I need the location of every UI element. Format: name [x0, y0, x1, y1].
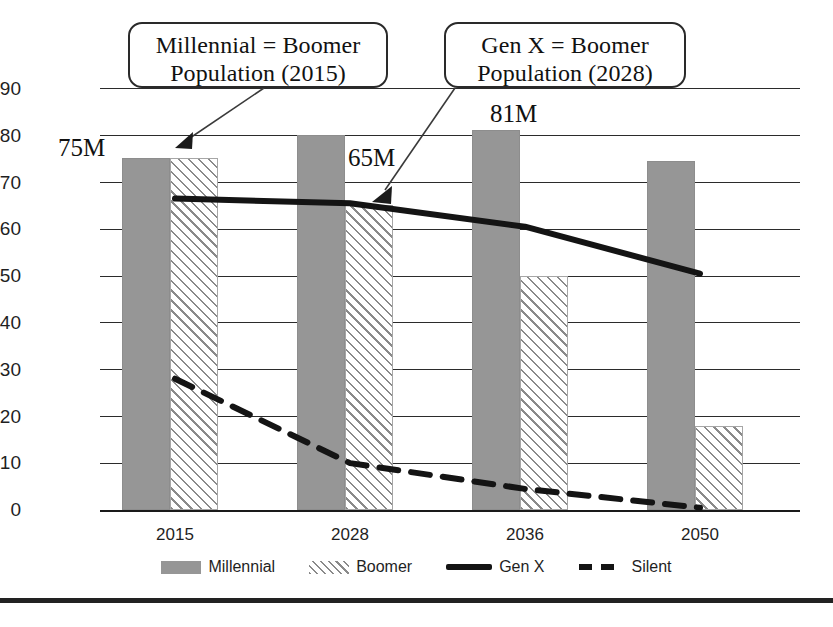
ytick-label-50: 50	[0, 266, 21, 285]
ytick-label-0: 0	[0, 500, 21, 519]
value-label-65m: 65M	[348, 145, 395, 170]
callout-millennial-boomer: Millennial = Boomer Population (2015)	[128, 22, 388, 88]
ytick-label-80: 80	[0, 126, 21, 145]
legend-item-genx: Gen X	[446, 558, 544, 576]
legend-label-silent: Silent	[632, 558, 672, 576]
bar-millennial-2050	[647, 161, 695, 510]
bar-boomer-2028	[345, 205, 393, 510]
bar-millennial-2036	[472, 130, 520, 510]
legend-label-boomer: Boomer	[356, 558, 412, 576]
value-label-75m: 75M	[58, 135, 105, 160]
bar-boomer-2036	[520, 276, 568, 510]
boomer-swatch-icon	[309, 561, 349, 574]
ytick-label-90: 90	[0, 79, 21, 98]
ytick-label-30: 30	[0, 360, 21, 379]
bar-boomer-2050	[695, 426, 743, 510]
silent-line-swatch-icon	[579, 564, 625, 570]
legend-label-genx: Gen X	[499, 558, 544, 576]
legend-item-millennial: Millennial	[161, 558, 275, 576]
bottom-divider	[0, 598, 833, 603]
chart-legend: Millennial Boomer Gen X Silent	[0, 558, 833, 576]
legend-item-boomer: Boomer	[309, 558, 412, 576]
ytick-label-20: 20	[0, 407, 21, 426]
legend-item-silent: Silent	[579, 558, 672, 576]
bar-millennial-2028	[297, 135, 345, 510]
ytick-label-70: 70	[0, 173, 21, 192]
plot-area	[100, 88, 800, 510]
callout-genx-line2: Population (2028)	[446, 59, 684, 87]
bar-millennial-2015	[122, 158, 170, 510]
callout-genx-line1: Gen X = Boomer	[446, 31, 684, 59]
callout-genx-boomer: Gen X = Boomer Population (2028)	[444, 22, 686, 88]
callout-millennial-line1: Millennial = Boomer	[130, 31, 386, 59]
legend-label-millennial: Millennial	[208, 558, 275, 576]
genx-line-swatch-icon	[446, 564, 492, 570]
x-axis-line	[100, 510, 800, 512]
ytick-label-40: 40	[0, 313, 21, 332]
xtick-label-2036: 2036	[465, 525, 585, 545]
xtick-label-2015: 2015	[115, 525, 235, 545]
value-label-81m: 81M	[490, 101, 537, 126]
callout-millennial-line2: Population (2015)	[130, 59, 386, 87]
generation-population-chart: 90 80 70 60 50 40 30 20 10 0 2015 2028 2…	[0, 0, 833, 627]
xtick-label-2028: 2028	[290, 525, 410, 545]
bar-boomer-2015	[170, 158, 218, 510]
ytick-label-10: 10	[0, 453, 21, 472]
ytick-label-60: 60	[0, 219, 21, 238]
xtick-label-2050: 2050	[640, 525, 760, 545]
gridline-90	[100, 88, 800, 89]
millennial-swatch-icon	[161, 561, 201, 574]
gridline-80	[100, 135, 800, 136]
